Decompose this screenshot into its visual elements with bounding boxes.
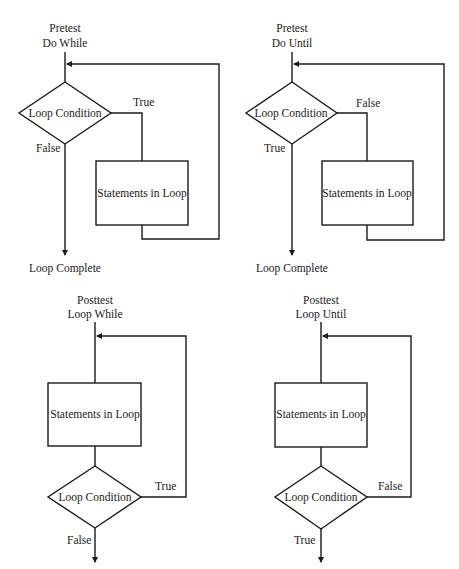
diagram-title-line1: Posttest <box>303 294 340 306</box>
loop-branch-label: False <box>356 97 380 109</box>
exit-branch-label: False <box>67 534 91 546</box>
diagram-title-line1: Pretest <box>49 22 81 34</box>
loop-flowcharts: Pretest Do While Loop Condition True Sta… <box>0 0 459 569</box>
diagram-pretest-do-until: Pretest Do Until Loop Condition False St… <box>246 22 444 275</box>
exit-branch-label: True <box>264 142 285 154</box>
exit-label: Loop Complete <box>256 262 328 275</box>
process-label: Statements in Loop <box>322 187 412 200</box>
process-label: Statements in Loop <box>276 408 366 421</box>
exit-label: Loop Complete <box>29 262 101 275</box>
diagram-title-line2: Do Until <box>272 37 313 49</box>
decision-label: Loop Condition <box>284 491 357 504</box>
diagram-title-line2: Do While <box>43 37 88 49</box>
diagram-posttest-loop-while: Posttest Loop While Statements in Loop L… <box>48 294 186 562</box>
decision-label: Loop Condition <box>254 107 327 120</box>
diagram-title-line2: Loop While <box>67 308 122 321</box>
diagram-title-line2: Loop Until <box>296 308 347 321</box>
loop-branch-label: True <box>133 96 154 108</box>
loop-branch-connector <box>111 113 142 161</box>
process-label: Statements in Loop <box>97 187 187 200</box>
diagram-title-line1: Posttest <box>77 294 114 306</box>
process-label: Statements in Loop <box>50 408 140 421</box>
diagram-pretest-do-while: Pretest Do While Loop Condition True Sta… <box>19 22 219 275</box>
diagram-title-line1: Pretest <box>276 22 308 34</box>
exit-branch-label: False <box>36 142 60 154</box>
loop-branch-label: True <box>155 480 176 492</box>
decision-label: Loop Condition <box>58 491 131 504</box>
loop-branch-label: False <box>378 480 402 492</box>
exit-branch-label: True <box>294 534 315 546</box>
decision-label: Loop Condition <box>28 107 101 120</box>
loop-branch-connector <box>337 113 367 161</box>
diagram-posttest-loop-until: Posttest Loop Until Statements in Loop L… <box>275 294 411 562</box>
